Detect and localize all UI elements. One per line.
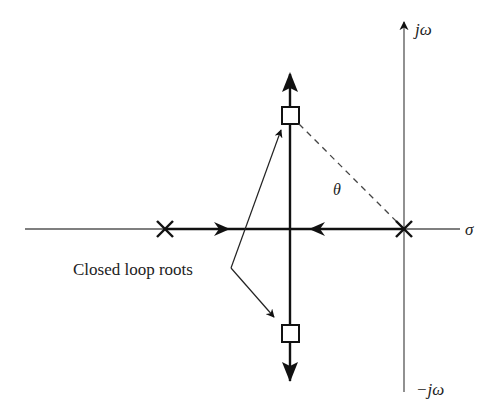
leader-line-lower <box>231 268 274 317</box>
upper-root-square-icon <box>282 107 299 124</box>
root-locus-diagram: jω −jω σ θ Closed loop roots <box>0 0 498 420</box>
leader-line-upper <box>231 130 281 268</box>
lower-root-square-icon <box>282 325 299 342</box>
closed-loop-roots-label: Closed loop roots <box>73 260 193 279</box>
imag-axis-pos-label: jω <box>413 20 432 39</box>
real-axis-label: σ <box>465 220 474 239</box>
angle-theta-label: θ <box>333 181 341 198</box>
angle-dashed-line <box>299 124 404 229</box>
imag-axis-neg-label: −jω <box>416 380 444 399</box>
